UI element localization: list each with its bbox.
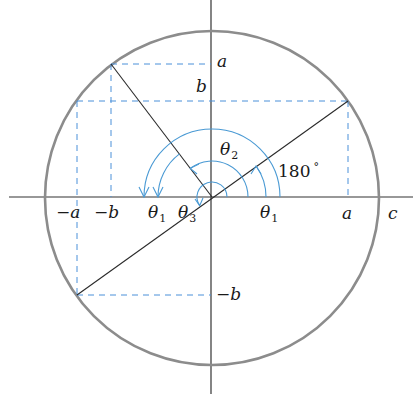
label-y-neg-b: −b [216, 286, 241, 303]
label-x-neg-b: −b [94, 204, 119, 221]
label-180-degree: 180° [278, 162, 319, 180]
label-theta1-left: θ1 [148, 204, 166, 224]
label-y-b: b [196, 78, 207, 95]
label-theta2: θ2 [220, 141, 238, 161]
label-theta1-right: θ1 [260, 204, 278, 224]
arc-theta1-right [256, 166, 266, 197]
label-theta3: θ3 [178, 204, 196, 224]
label-y-a: a [217, 53, 227, 70]
arc-180-degree [144, 129, 280, 197]
label-x-neg-a: −a [56, 204, 80, 221]
diameter-line [77, 101, 348, 295]
label-x-a: a [342, 205, 352, 222]
label-x-c: c [388, 205, 398, 222]
